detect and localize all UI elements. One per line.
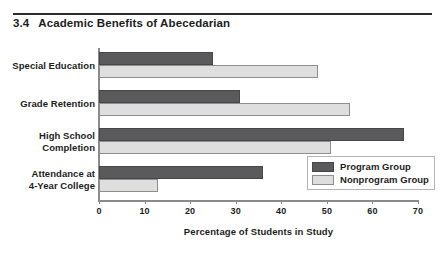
legend-swatch-program-group xyxy=(312,162,334,172)
x-tick-label-40: 40 xyxy=(276,206,286,216)
bar-nonprogram-attendance-4-year-college xyxy=(99,179,158,192)
x-tick-label-70: 70 xyxy=(413,206,423,216)
bar-nonprogram-high-school-completion xyxy=(99,141,331,154)
category-label-high-school-completion: High School Completion xyxy=(3,130,95,153)
x-tick-label-30: 30 xyxy=(230,206,240,216)
bar-program-grade-retention xyxy=(99,90,240,103)
x-tick-label-0: 0 xyxy=(96,206,101,216)
x-tick-label-60: 60 xyxy=(367,206,377,216)
plot-area: 0 10 20 30 40 50 60 70 Percentage of Stu… xyxy=(99,48,418,200)
legend-label-program-group: Program Group xyxy=(340,161,411,172)
page-title: Academic Benefits of Abecedarian xyxy=(38,17,230,29)
x-tick-0 xyxy=(99,200,100,204)
legend-label-nonprogram-group: Nonprogram Group xyxy=(340,174,429,185)
bar-group-high-school-completion xyxy=(99,128,418,154)
x-tick-20 xyxy=(190,200,191,204)
category-label-attendance-4-year-college: Attendance at 4-Year College xyxy=(3,168,95,191)
x-tick-40 xyxy=(281,200,282,204)
x-tick-label-20: 20 xyxy=(185,206,195,216)
x-tick-50 xyxy=(327,200,328,204)
x-tick-60 xyxy=(372,200,373,204)
category-label-grade-retention: Grade Retention xyxy=(3,98,95,110)
figure-rule xyxy=(13,13,432,15)
category-axis-labels: Special Education Grade Retention High S… xyxy=(0,48,95,200)
bar-nonprogram-grade-retention xyxy=(99,103,350,116)
bar-chart: Special Education Grade Retention High S… xyxy=(0,40,445,259)
x-tick-30 xyxy=(236,200,237,204)
bar-program-attendance-4-year-college xyxy=(99,166,263,179)
x-tick-10 xyxy=(145,200,146,204)
legend-item-nonprogram-group: Nonprogram Group xyxy=(312,173,429,186)
bar-nonprogram-special-education xyxy=(99,65,318,78)
x-tick-label-10: 10 xyxy=(139,206,149,216)
bar-program-special-education xyxy=(99,52,213,65)
figure-number: 3.4 xyxy=(13,17,29,29)
bar-group-special-education xyxy=(99,52,418,78)
x-axis-title: Percentage of Students in Study xyxy=(99,226,418,237)
chart-legend: Program Group Nonprogram Group xyxy=(307,156,435,190)
bar-program-high-school-completion xyxy=(99,128,404,141)
bar-group-grade-retention xyxy=(99,90,418,116)
legend-item-program-group: Program Group xyxy=(312,160,429,173)
category-label-special-education: Special Education xyxy=(3,60,95,72)
legend-swatch-nonprogram-group xyxy=(312,175,334,185)
figure-heading: 3.4 Academic Benefits of Abecedarian xyxy=(13,17,230,29)
x-tick-label-50: 50 xyxy=(322,206,332,216)
x-tick-70 xyxy=(418,200,419,204)
x-axis-line xyxy=(98,200,418,202)
